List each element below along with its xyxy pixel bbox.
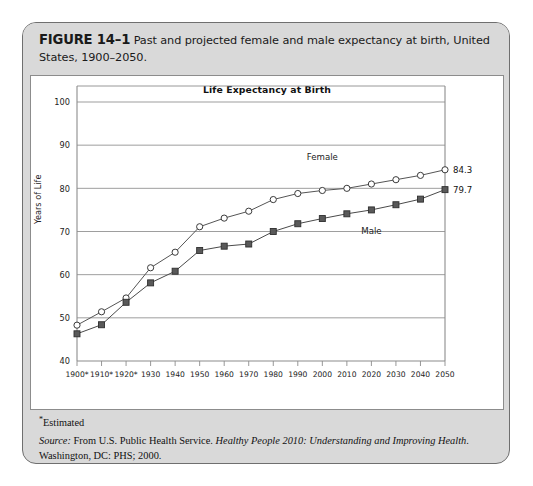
x-axis-tick-label: 1900*	[65, 370, 88, 379]
data-point-marker	[417, 196, 423, 202]
data-point-marker	[442, 187, 448, 193]
data-point-marker	[295, 221, 301, 227]
figure-card: FIGURE 14–1 Past and projected female an…	[22, 22, 510, 464]
x-axis-tick-label: 2030	[386, 370, 405, 379]
x-axis-tick-label: 1920*	[115, 370, 138, 379]
data-point-marker	[197, 247, 203, 253]
data-point-marker	[270, 229, 276, 235]
series-annotation-label: Male	[361, 226, 381, 236]
source-label: Source:	[39, 435, 71, 446]
chart-panel: Life Expectancy at Birth Years of Life 4…	[30, 75, 504, 410]
series-end-value-label: 79.7	[453, 185, 472, 195]
y-axis-tick-label: 50	[60, 313, 70, 323]
figure-number-label: FIGURE 14–1	[39, 32, 130, 47]
data-point-marker	[172, 268, 178, 274]
data-point-marker	[344, 185, 350, 191]
footnote-estimated-text: Estimated	[43, 417, 84, 428]
data-point-marker	[99, 322, 105, 328]
source-title-italic: Healthy People 2010: Understanding and I…	[216, 435, 467, 446]
x-axis-tick-label: 2000	[313, 370, 332, 379]
data-point-marker	[148, 265, 154, 271]
data-point-marker	[197, 224, 203, 230]
footnote-estimated: *Estimated	[39, 413, 493, 430]
data-point-marker	[319, 216, 325, 222]
x-axis-tick-label: 1940	[165, 370, 184, 379]
data-point-marker	[417, 172, 423, 178]
x-axis-tick-label: 1930	[141, 370, 160, 379]
x-axis-tick-label: 2020	[362, 370, 381, 379]
x-axis-tick-label: 2050	[435, 370, 454, 379]
data-point-marker	[221, 215, 227, 221]
figure-caption-line: FIGURE 14–1 Past and projected female an…	[39, 32, 493, 66]
y-axis-tick-label: 80	[60, 184, 70, 194]
y-axis-tick-label: 100	[54, 97, 70, 107]
footnote-source: Source: From U.S. Public Health Service.…	[39, 434, 493, 462]
y-axis-tick-label: 40	[60, 356, 70, 366]
data-point-marker	[74, 322, 80, 328]
data-point-marker	[98, 309, 104, 315]
data-point-marker	[123, 299, 129, 305]
line-chart-plot: 4050607080901001900*1910*1920*1930194019…	[31, 76, 505, 411]
x-axis-tick-label: 1910*	[90, 370, 113, 379]
data-point-marker	[344, 211, 350, 217]
x-axis-tick-label: 1960	[215, 370, 234, 379]
y-axis-tick-label: 90	[60, 140, 70, 150]
data-point-marker	[246, 241, 252, 247]
y-axis-tick-label: 70	[60, 227, 70, 237]
data-point-marker	[148, 280, 154, 286]
x-axis-tick-label: 1950	[190, 370, 209, 379]
data-point-marker	[393, 202, 399, 208]
data-point-marker	[246, 208, 252, 214]
data-point-marker	[442, 167, 448, 173]
source-pre-text: From U.S. Public Health Service.	[71, 435, 216, 446]
x-axis-tick-label: 2040	[411, 370, 430, 379]
data-point-marker	[221, 243, 227, 249]
data-point-marker	[295, 190, 301, 196]
data-point-marker	[368, 181, 374, 187]
x-axis-tick-label: 1970	[239, 370, 258, 379]
figure-footer: *Estimated Source: From U.S. Public Heal…	[23, 413, 509, 463]
data-point-marker	[319, 187, 325, 193]
x-axis-tick-label: 1990	[288, 370, 307, 379]
y-axis-tick-label: 60	[60, 270, 70, 280]
data-point-marker	[172, 249, 178, 255]
x-axis-tick-label: 1980	[264, 370, 283, 379]
data-point-marker	[74, 331, 80, 337]
series-end-value-label: 84.3	[453, 165, 472, 175]
data-point-marker	[368, 207, 374, 213]
figure-header: FIGURE 14–1 Past and projected female an…	[23, 23, 509, 74]
data-point-marker	[393, 177, 399, 183]
series-annotation-label: Female	[307, 152, 338, 162]
data-point-marker	[270, 196, 276, 202]
x-axis-tick-label: 2010	[337, 370, 356, 379]
